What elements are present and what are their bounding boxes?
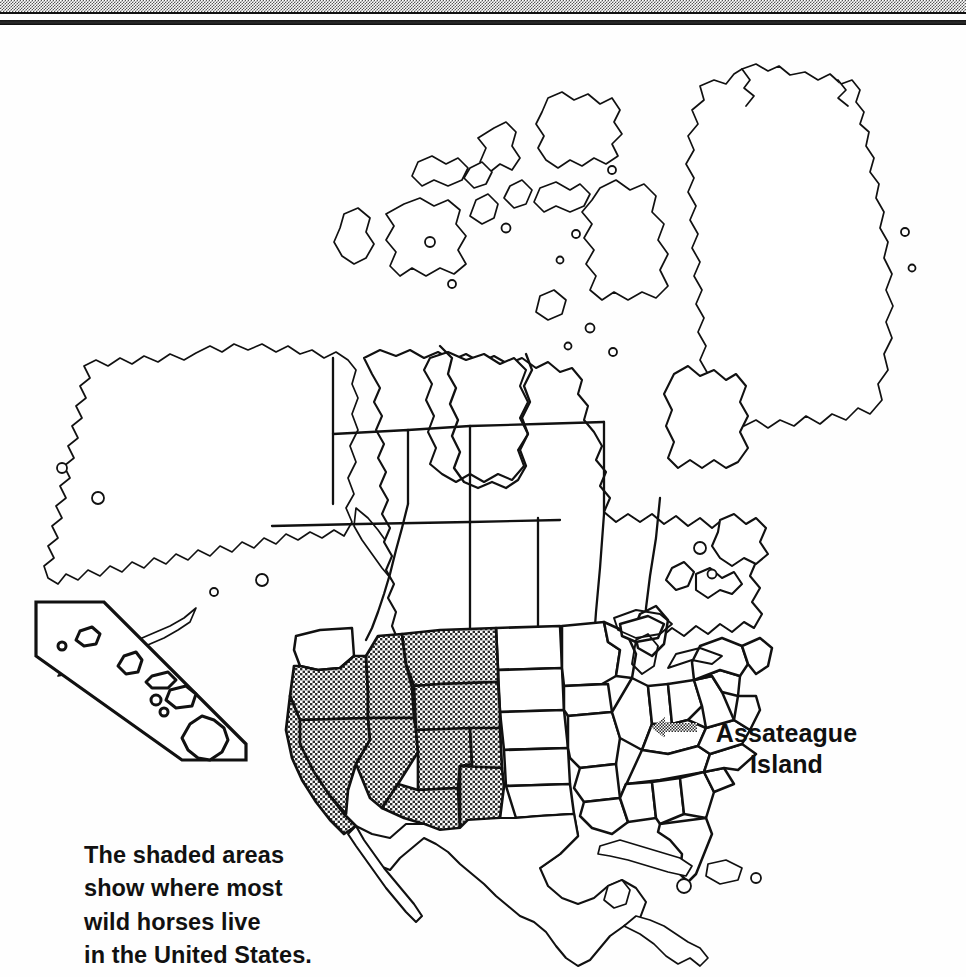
state-kansas bbox=[504, 748, 570, 786]
state-oklahoma bbox=[506, 784, 574, 818]
arctic-islet-a bbox=[425, 237, 435, 247]
state-iowa bbox=[564, 684, 612, 716]
island-ellesmere bbox=[536, 92, 622, 168]
pei-islet bbox=[708, 570, 717, 579]
arctic-islet-c bbox=[502, 224, 511, 233]
arctic-islet-f bbox=[557, 257, 564, 264]
assateague-label-line1: Assateague bbox=[716, 719, 857, 747]
assateague-island-label: Assateague Island bbox=[694, 718, 879, 779]
hawaii-island-niihau bbox=[58, 642, 66, 650]
arctic-islet-d bbox=[572, 230, 580, 238]
scan-header bbox=[0, 0, 966, 28]
island-somerset bbox=[504, 180, 532, 208]
map-caption: The shaded areas show where most wild ho… bbox=[84, 839, 312, 972]
landmass-alaska bbox=[44, 344, 358, 584]
hudson-islet-3 bbox=[565, 343, 572, 350]
island-banks bbox=[334, 208, 374, 264]
state-alabama bbox=[652, 778, 684, 824]
state-north-dakota bbox=[496, 626, 562, 670]
island-victoria bbox=[386, 198, 466, 276]
arctic-islet-b bbox=[448, 280, 456, 288]
greenland-offshore-islet-2 bbox=[909, 265, 916, 272]
central-america-isthmus bbox=[624, 916, 708, 966]
island-prince-of-wales bbox=[470, 194, 498, 224]
stippled-left-arrow-icon bbox=[649, 714, 699, 741]
island-jamaica bbox=[677, 879, 691, 893]
island-puerto-rico bbox=[751, 873, 761, 883]
state-wyoming-shaded bbox=[414, 682, 500, 730]
hudson-islet-2 bbox=[609, 348, 617, 356]
hawaii-island-kauai bbox=[76, 627, 100, 646]
island-baffin bbox=[582, 180, 668, 300]
hudson-islet-1 bbox=[586, 324, 595, 333]
island-melville bbox=[412, 156, 468, 186]
state-arkansas bbox=[574, 764, 620, 802]
anticosti-island bbox=[694, 542, 706, 554]
alaska-islet-nunivak bbox=[92, 492, 104, 504]
island-southampton bbox=[536, 290, 566, 320]
black-rule-artifact bbox=[0, 20, 966, 25]
state-south-dakota bbox=[498, 668, 564, 712]
hawaii-island-maui bbox=[166, 686, 196, 708]
hawaii-island-kahoolawe bbox=[160, 708, 168, 716]
arctic-islet-e bbox=[608, 166, 616, 174]
map-figure: Assateague Island The shaded areas show … bbox=[0, 28, 966, 977]
hawaii-island-lanai bbox=[151, 695, 161, 705]
island-devon bbox=[534, 182, 590, 212]
state-mississippi bbox=[620, 782, 656, 822]
landmass-newfoundland bbox=[712, 514, 768, 566]
state-colorado-shaded bbox=[470, 728, 502, 768]
hudson-bay bbox=[424, 352, 528, 482]
state-montana-shaded bbox=[402, 628, 498, 686]
halftone-band-edge bbox=[0, 12, 966, 14]
north-america-map-svg bbox=[0, 28, 966, 977]
state-missouri bbox=[568, 712, 620, 768]
alaska-islet-kodiak bbox=[256, 574, 268, 586]
greenland-offshore-islet-1 bbox=[901, 228, 909, 236]
landmass-labrador bbox=[664, 366, 748, 468]
alaska-islet-pribilof bbox=[210, 588, 218, 596]
yucatan-peninsula bbox=[604, 880, 630, 908]
state-nebraska bbox=[500, 710, 568, 750]
assateague-label-line2: Island bbox=[694, 749, 879, 780]
alaska-islet-st-lawrence bbox=[57, 463, 67, 473]
state-new-england bbox=[742, 638, 772, 674]
island-hispaniola bbox=[706, 860, 742, 884]
